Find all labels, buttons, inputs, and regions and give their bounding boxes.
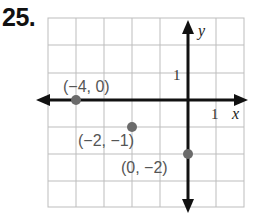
y-axis-up-arrow-icon (182, 20, 194, 34)
y-axis-label: y (196, 22, 206, 40)
y-axis (182, 20, 194, 213)
point-label-neg4-0: (−4, 0) (63, 78, 110, 95)
point-label-0-neg2: (0, −2) (121, 159, 168, 176)
y-tick-1: 1 (173, 67, 181, 83)
x-tick-1: 1 (211, 106, 219, 122)
x-axis-left-arrow-icon (36, 94, 50, 106)
point-neg4-0 (71, 95, 81, 105)
x-axis-label: x (231, 105, 239, 122)
coordinate-plane: y x 1 1 (−4, 0) (−2, −1) (0, −2) (0, 0, 264, 221)
point-label-neg2-neg1: (−2, −1) (78, 132, 134, 149)
point-neg2-neg1 (127, 122, 137, 132)
y-axis-down-arrow-icon (182, 199, 194, 213)
point-0-neg2 (183, 149, 193, 159)
